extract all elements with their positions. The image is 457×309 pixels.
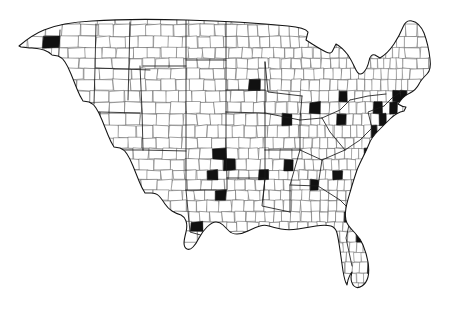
county (244, 200, 255, 211)
us-county-map-canvas (0, 0, 457, 309)
county (273, 211, 282, 222)
county (301, 80, 310, 92)
county (204, 80, 216, 91)
county (246, 113, 258, 126)
county (199, 69, 213, 79)
county (294, 47, 302, 59)
county (264, 212, 274, 223)
county (149, 148, 163, 159)
county (235, 190, 248, 201)
county (136, 125, 152, 138)
highlighted-county (310, 179, 318, 190)
county (281, 58, 291, 69)
county (226, 148, 239, 160)
county (215, 48, 229, 59)
county (162, 148, 177, 160)
county (171, 200, 187, 212)
county (290, 91, 301, 102)
county (370, 90, 378, 102)
county (124, 91, 140, 102)
county (302, 190, 310, 201)
county (320, 138, 328, 149)
county (116, 48, 135, 59)
county (260, 159, 273, 171)
county (381, 80, 388, 92)
county (291, 59, 302, 70)
county (244, 90, 256, 103)
county (289, 125, 299, 138)
county (222, 212, 235, 223)
county (328, 201, 337, 212)
county (202, 48, 215, 59)
county (330, 58, 339, 69)
county (388, 69, 397, 80)
county (189, 79, 204, 92)
county (277, 126, 289, 139)
county (161, 79, 176, 91)
county (247, 58, 259, 70)
county (311, 90, 319, 102)
county (170, 68, 187, 80)
county (310, 58, 321, 68)
county (197, 170, 208, 180)
county (219, 91, 231, 103)
county (242, 47, 254, 58)
county (153, 91, 167, 103)
county (235, 211, 246, 223)
county (153, 125, 169, 138)
county (199, 211, 209, 222)
county (294, 69, 304, 80)
county (141, 102, 156, 114)
highlighted-county (339, 91, 347, 102)
county (155, 58, 170, 68)
county (239, 170, 250, 180)
county (342, 125, 350, 137)
county (280, 149, 293, 160)
county (350, 125, 357, 137)
county (373, 69, 381, 80)
county (281, 211, 291, 221)
county (189, 24, 201, 37)
highlighted-county (248, 79, 260, 90)
county (349, 102, 356, 114)
county (76, 80, 95, 91)
county (187, 68, 200, 80)
county (109, 37, 126, 48)
county (264, 179, 275, 190)
county (95, 36, 110, 49)
county (249, 170, 260, 180)
county (79, 58, 96, 69)
county (143, 58, 155, 69)
county (198, 37, 211, 48)
county (331, 160, 339, 171)
county (213, 69, 226, 80)
county (153, 36, 169, 48)
county (352, 262, 360, 273)
county (347, 79, 357, 91)
county (339, 58, 347, 69)
county (319, 149, 327, 160)
county (342, 170, 352, 181)
county (285, 48, 294, 58)
highlighted-county (309, 101, 320, 114)
county (302, 148, 312, 160)
county (95, 58, 113, 69)
county (222, 114, 234, 125)
county (228, 170, 238, 181)
county (247, 69, 259, 80)
county (274, 179, 283, 190)
county (178, 90, 192, 102)
county (138, 36, 153, 48)
county (236, 68, 248, 80)
county (347, 159, 356, 171)
county (176, 79, 190, 91)
highlighted-county (284, 160, 293, 171)
county (128, 137, 142, 149)
county (228, 47, 242, 58)
county (124, 101, 142, 113)
county (169, 114, 184, 125)
county (320, 200, 329, 212)
county (267, 125, 278, 138)
county (176, 47, 189, 58)
county (381, 69, 389, 80)
